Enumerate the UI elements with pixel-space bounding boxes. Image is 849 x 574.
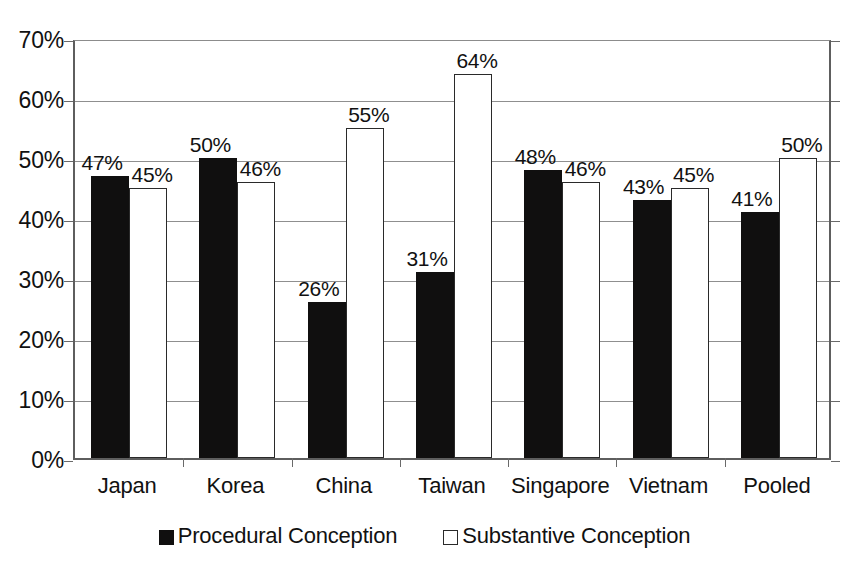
axis-tick-mark bbox=[64, 281, 73, 282]
axis-tick-mark bbox=[831, 401, 840, 402]
axis-tick-mark bbox=[831, 41, 840, 42]
bar-pooled-procedural[interactable] bbox=[741, 212, 779, 458]
gridline bbox=[75, 161, 829, 162]
filled-square-icon bbox=[159, 530, 174, 545]
bar-value-label: 45% bbox=[666, 164, 722, 185]
y-axis-labels: 70%60%50%40%30%20%10%0% bbox=[0, 0, 64, 574]
y-axis-tick-label: 70% bbox=[0, 29, 64, 52]
bar-singapore-substantive[interactable] bbox=[562, 182, 600, 458]
gridline bbox=[75, 101, 829, 102]
bar-value-label: 46% bbox=[232, 158, 288, 179]
bar-singapore-procedural[interactable] bbox=[524, 170, 562, 458]
category-tick-mark bbox=[508, 458, 509, 467]
category-tick-mark bbox=[616, 458, 617, 467]
bar-value-label: 41% bbox=[724, 188, 780, 209]
bar-korea-procedural[interactable] bbox=[199, 158, 237, 458]
bar-korea-substantive[interactable] bbox=[237, 182, 275, 458]
bar-value-label: 45% bbox=[124, 164, 180, 185]
legend-label: Procedural Conception bbox=[178, 524, 398, 548]
axis-tick-mark bbox=[64, 401, 73, 402]
bar-value-label: 31% bbox=[399, 248, 455, 269]
axis-tick-mark bbox=[64, 461, 73, 462]
bar-value-label: 43% bbox=[616, 176, 672, 197]
axis-tick-mark bbox=[831, 161, 840, 162]
bar-pooled-substantive[interactable] bbox=[779, 158, 817, 458]
legend-item-procedural[interactable]: Procedural Conception bbox=[159, 524, 398, 548]
axis-tick-mark bbox=[64, 341, 73, 342]
y-axis-tick-label: 30% bbox=[0, 269, 64, 292]
bar-vietnam-procedural[interactable] bbox=[633, 200, 671, 458]
bar-value-label: 47% bbox=[74, 152, 130, 173]
chart-legend: Procedural ConceptionSubstantive Concept… bbox=[0, 524, 849, 548]
category-label-pooled: Pooled bbox=[707, 474, 847, 498]
bar-value-label: 26% bbox=[291, 278, 347, 299]
axis-tick-mark bbox=[831, 101, 840, 102]
bar-china-substantive[interactable] bbox=[346, 128, 384, 458]
y-axis-tick-label: 20% bbox=[0, 329, 64, 352]
axis-tick-mark bbox=[831, 461, 840, 462]
bar-chart: 70%60%50%40%30%20%10%0% Procedural Conce… bbox=[0, 0, 849, 574]
category-tick-mark bbox=[400, 458, 401, 467]
bar-value-label: 64% bbox=[449, 50, 505, 71]
legend-label: Substantive Conception bbox=[462, 524, 690, 548]
bar-japan-procedural[interactable] bbox=[91, 176, 129, 458]
bar-taiwan-procedural[interactable] bbox=[416, 272, 454, 458]
bar-taiwan-substantive[interactable] bbox=[454, 74, 492, 458]
hollow-square-icon bbox=[443, 530, 458, 545]
bar-value-label: 55% bbox=[341, 104, 397, 125]
axis-tick-mark bbox=[64, 221, 73, 222]
bar-value-label: 48% bbox=[507, 146, 563, 167]
legend-item-substantive[interactable]: Substantive Conception bbox=[443, 524, 690, 548]
bar-china-procedural[interactable] bbox=[308, 302, 346, 458]
y-axis-tick-label: 50% bbox=[0, 149, 64, 172]
category-tick-mark bbox=[292, 458, 293, 467]
axis-tick-mark bbox=[64, 101, 73, 102]
bar-vietnam-substantive[interactable] bbox=[671, 188, 709, 458]
y-axis-tick-label: 0% bbox=[0, 449, 64, 472]
category-tick-mark bbox=[725, 458, 726, 467]
y-axis-tick-label: 60% bbox=[0, 89, 64, 112]
y-axis-tick-label: 40% bbox=[0, 209, 64, 232]
category-tick-mark bbox=[183, 458, 184, 467]
y-axis-tick-label: 10% bbox=[0, 389, 64, 412]
axis-tick-mark bbox=[64, 161, 73, 162]
bar-value-label: 50% bbox=[774, 134, 830, 155]
axis-tick-mark bbox=[831, 281, 840, 282]
bar-japan-substantive[interactable] bbox=[129, 188, 167, 458]
bar-value-label: 50% bbox=[182, 134, 238, 155]
axis-tick-mark bbox=[831, 221, 840, 222]
axis-tick-mark bbox=[64, 41, 73, 42]
bar-value-label: 46% bbox=[557, 158, 613, 179]
axis-tick-mark bbox=[831, 341, 840, 342]
gridline bbox=[75, 221, 829, 222]
